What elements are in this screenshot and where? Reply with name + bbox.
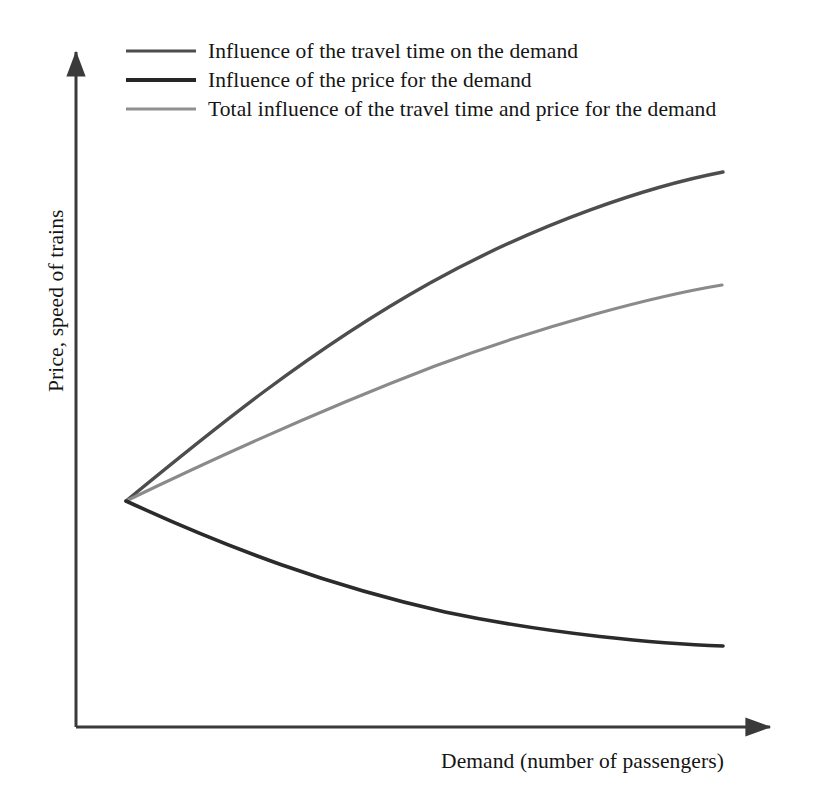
chart-figure: Influence of the travel time on the dema… xyxy=(0,0,837,804)
legend-label-travel-time: Influence of the travel time on the dema… xyxy=(208,39,578,63)
legend-label-price: Influence of the price for the demand xyxy=(208,68,532,92)
legend-item-travel-time: Influence of the travel time on the dema… xyxy=(126,36,746,65)
x-axis-label: Demand (number of passengers) xyxy=(441,748,724,774)
legend-item-price: Influence of the price for the demand xyxy=(126,65,746,94)
y-axis-label: Price, speed of trains xyxy=(43,92,69,392)
curve-total-influence xyxy=(126,285,722,501)
curve-travel-time-influence xyxy=(126,172,723,501)
curve-price-influence xyxy=(126,501,723,646)
legend-label-total: Total influence of the travel time and p… xyxy=(208,97,716,121)
legend-item-total: Total influence of the travel time and p… xyxy=(126,94,746,123)
chart-legend: Influence of the travel time on the dema… xyxy=(126,36,746,123)
